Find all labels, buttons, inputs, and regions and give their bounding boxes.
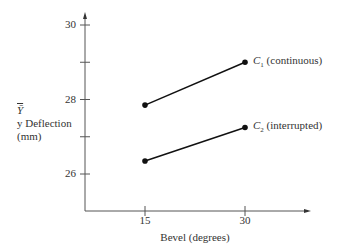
- series-lines: [142, 59, 248, 163]
- y-tick-label: 26: [54, 167, 76, 179]
- y-tick-label: 28: [54, 93, 76, 105]
- x-tick-label: 15: [133, 214, 157, 226]
- y-axis-label-unit: (mm): [17, 130, 72, 143]
- x-tick-label: 30: [233, 214, 257, 226]
- x-axis-arrow-icon: [304, 209, 311, 213]
- data-point-marker: [242, 125, 248, 131]
- y-axis-label: Ȳ y Deflection (mm): [17, 104, 72, 143]
- data-point-marker: [242, 59, 248, 65]
- data-point-marker: [142, 158, 148, 164]
- y-tick-label: 30: [54, 18, 76, 30]
- x-axis-label: Bevel (degrees): [150, 231, 240, 243]
- series-line-2: [145, 127, 245, 161]
- series-line-1: [145, 62, 245, 105]
- y-axis-label-text: y Deflection: [17, 117, 72, 130]
- y-axis-arrow-icon: [83, 12, 87, 19]
- data-point-marker: [142, 102, 148, 108]
- series-label-2: C2 (interrupted): [253, 119, 322, 134]
- series-label-1: C1 (continuous): [253, 54, 322, 69]
- y-axis-label-symbol: Ȳ: [17, 104, 72, 117]
